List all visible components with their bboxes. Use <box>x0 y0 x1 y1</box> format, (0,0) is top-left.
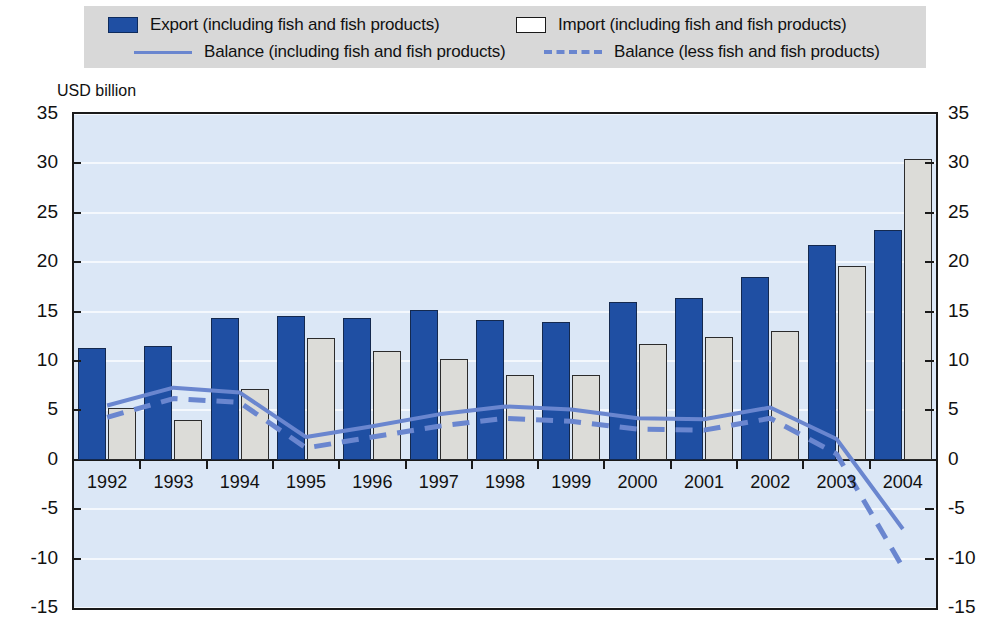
legend-swatch-solid-line-icon <box>134 44 192 60</box>
y-axis-label-left: 20 <box>12 250 58 272</box>
y-axis-label-left: -10 <box>12 547 58 569</box>
y-axis-tick-left <box>72 212 81 214</box>
y-axis-label-left: 25 <box>12 201 58 223</box>
x-axis-tick <box>471 460 473 469</box>
y-axis-label-left: -15 <box>12 596 58 618</box>
x-axis-label-1994: 1994 <box>208 472 272 493</box>
line-balance-including-fish <box>107 388 903 529</box>
y-axis-label-right: -15 <box>948 596 994 618</box>
x-axis-tick <box>338 460 340 469</box>
balance-lines-layer <box>74 114 936 608</box>
chart-plot-area <box>72 112 938 610</box>
legend-item-balance-including: Balance (including fish and fish product… <box>134 39 506 65</box>
y-axis-tick-left <box>72 409 81 411</box>
y-axis-label-right: 0 <box>948 448 994 470</box>
x-axis-tick <box>670 460 672 469</box>
legend-swatch-import-icon <box>516 17 546 33</box>
y-axis-label-left: 0 <box>12 448 58 470</box>
y-axis-label-left: 10 <box>12 349 58 371</box>
x-axis-tick <box>272 460 274 469</box>
y-axis-unit-label: USD billion <box>57 82 136 100</box>
x-axis-tick <box>405 460 407 469</box>
y-axis-label-left: 30 <box>12 151 58 173</box>
x-axis-label-2000: 2000 <box>606 472 670 493</box>
x-axis-tick <box>869 460 871 469</box>
y-axis-tick-left <box>72 311 81 313</box>
x-axis-label-1997: 1997 <box>407 472 471 493</box>
x-axis-label-1999: 1999 <box>539 472 603 493</box>
legend-item-import: Import (including fish and fish products… <box>516 12 847 38</box>
x-axis-label-2001: 2001 <box>672 472 736 493</box>
y-axis-label-left: 35 <box>12 102 58 124</box>
legend-label-balance-including: Balance (including fish and fish product… <box>204 42 506 62</box>
y-axis-label-left: -5 <box>12 497 58 519</box>
legend-label-export: Export (including fish and fish products… <box>150 15 439 35</box>
legend-swatch-dashed-line-icon <box>544 44 602 60</box>
legend-swatch-export-icon <box>108 17 138 33</box>
legend-item-export: Export (including fish and fish products… <box>108 12 439 38</box>
y-axis-tick-right <box>925 360 934 362</box>
y-axis-tick-right <box>925 508 934 510</box>
y-axis-tick-left <box>72 360 81 362</box>
x-axis-label-1992: 1992 <box>75 472 139 493</box>
y-axis-tick-left <box>72 558 81 560</box>
x-axis-label-1996: 1996 <box>340 472 404 493</box>
x-axis-tick <box>603 460 605 469</box>
y-axis-tick-right <box>925 212 934 214</box>
y-axis-tick-right <box>925 261 934 263</box>
y-axis-tick-left <box>72 162 81 164</box>
chart-legend: Export (including fish and fish products… <box>84 6 926 68</box>
x-axis-label-1993: 1993 <box>141 472 205 493</box>
y-axis-label-right: 35 <box>948 102 994 124</box>
chart-canvas <box>72 112 938 610</box>
y-axis-label-right: -10 <box>948 547 994 569</box>
x-axis-tick <box>736 460 738 469</box>
legend-label-balance-less: Balance (less fish and fish products) <box>614 42 880 62</box>
y-axis-tick-right <box>925 162 934 164</box>
y-axis-tick-right <box>925 311 934 313</box>
y-axis-label-right: 30 <box>948 151 994 173</box>
y-axis-tick-right <box>925 409 934 411</box>
x-axis-label-2004: 2004 <box>871 472 935 493</box>
x-axis-tick <box>139 460 141 469</box>
y-axis-label-right: -5 <box>948 497 994 519</box>
y-axis-tick-right <box>925 558 934 560</box>
x-axis-tick <box>802 460 804 469</box>
y-axis-tick-left <box>72 508 81 510</box>
y-axis-label-left: 5 <box>12 398 58 420</box>
y-axis-label-right: 10 <box>948 349 994 371</box>
y-axis-label-right: 20 <box>948 250 994 272</box>
y-axis-label-left: 15 <box>12 300 58 322</box>
x-axis-label-2003: 2003 <box>805 472 869 493</box>
x-axis-label-1998: 1998 <box>473 472 537 493</box>
legend-label-import: Import (including fish and fish products… <box>558 15 847 35</box>
x-axis-label-2002: 2002 <box>738 472 802 493</box>
y-axis-label-right: 5 <box>948 398 994 420</box>
y-axis-tick-left <box>72 261 81 263</box>
legend-item-balance-less: Balance (less fish and fish products) <box>544 39 880 65</box>
x-axis-tick <box>206 460 208 469</box>
x-axis-label-1995: 1995 <box>274 472 338 493</box>
x-axis-tick <box>537 460 539 469</box>
y-axis-label-right: 25 <box>948 201 994 223</box>
y-axis-label-right: 15 <box>948 300 994 322</box>
